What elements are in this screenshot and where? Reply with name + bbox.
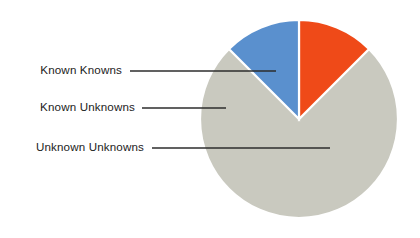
slice-label-known-knowns: Known Knowns [40, 63, 122, 76]
pie-chart-figure: Known Knowns Known Unknowns Unknown Unkn… [0, 0, 420, 238]
pie-chart-canvas: Known Knowns Known Unknowns Unknown Unkn… [0, 0, 420, 238]
slice-label-unknown-unknowns: Unknown Unknowns [36, 140, 144, 153]
pie-slices-group [200, 20, 398, 218]
slice-label-known-unknowns: Known Unknowns [40, 100, 135, 113]
